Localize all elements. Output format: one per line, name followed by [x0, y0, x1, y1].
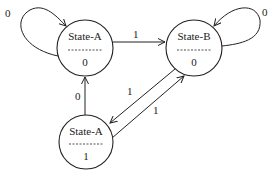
- state-name: State-B: [178, 30, 211, 42]
- edge-label: 0: [5, 7, 11, 19]
- edge-label: 1: [133, 28, 139, 40]
- edge-label: 0: [262, 6, 268, 18]
- state-output: 0: [191, 56, 197, 68]
- edge-n2-self: 0: [214, 6, 268, 46]
- state-output: 0: [82, 56, 88, 68]
- edge-label: 0: [75, 90, 81, 102]
- state-node-b[interactable]: State-B 0: [166, 20, 222, 76]
- state-node-a-top[interactable]: State-A 0: [57, 20, 113, 76]
- state-node-a-bottom[interactable]: State-A 1: [59, 115, 113, 169]
- edge-n3-n2: 1: [112, 76, 184, 138]
- edge-n3-n1: 0: [75, 77, 85, 116]
- state-output: 1: [83, 150, 89, 162]
- edge-n1-n2: 1: [113, 28, 165, 42]
- state-name: State-A: [68, 30, 102, 42]
- edge-label: 1: [153, 104, 159, 116]
- edge-n2-n3: 1: [110, 69, 175, 123]
- edge-label: 1: [127, 85, 133, 97]
- state-diagram: 0 1 0 1 1 0 State-A 0 State-B 0 State-A …: [0, 0, 276, 174]
- state-name: State-A: [69, 125, 103, 137]
